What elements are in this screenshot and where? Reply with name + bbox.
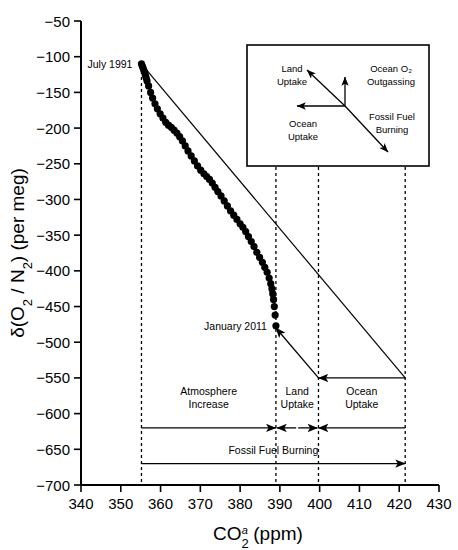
y-tick-label-5: −300	[36, 191, 70, 208]
data-point-0-58	[272, 322, 279, 329]
y-tick-label-6: −350	[36, 227, 70, 244]
y-axis-title: δ(O2 / N2) (per meg)	[7, 168, 35, 338]
inset-label-ocean-uptake-line2: Uptake	[288, 131, 318, 142]
data-point-0-8	[145, 82, 152, 89]
inset-label-fossil-fuel-burning-line1: Fossil Fuel	[369, 111, 415, 122]
figure-container: −50−100−150−200−250−300−350−400−450−500−…	[0, 0, 458, 550]
budget-label-ocean-uptake-line1: Ocean	[346, 385, 377, 397]
budget-label-fossil-fuel-burning-line1: Fossil Fuel Burning	[228, 444, 318, 456]
y-axis-title-sub1: 2	[20, 299, 35, 306]
y-tick-label-11: −600	[36, 405, 70, 422]
y-axis-title-slash: / N	[7, 269, 28, 299]
x-tick-label-7: 410	[347, 495, 372, 512]
y-tick-label-2: −150	[36, 84, 70, 101]
x-axis-ticks	[81, 485, 439, 492]
y-axis-title-delta: δ(O	[7, 306, 28, 338]
flux-arrow-land-uptake-flux	[276, 328, 319, 378]
budget-annotation-land-uptake: LandUptake	[277, 385, 318, 428]
y-tick-label-0: −50	[45, 13, 70, 30]
x-tick-label-1: 350	[108, 495, 133, 512]
x-tick-label-8: 420	[387, 495, 412, 512]
budget-annotation-atmosphere-increase: AtmosphereIncrease	[141, 385, 275, 428]
x-axis-title: CO2a (ppm)	[213, 523, 303, 550]
budget-label-atmosphere-increase-line2: Increase	[189, 398, 229, 410]
x-axis-title-suffix: (ppm)	[248, 523, 303, 544]
x-tick-label-0: 340	[68, 495, 93, 512]
budget-label-ocean-uptake-line2: Uptake	[345, 398, 378, 410]
y-tick-label-4: −250	[36, 155, 70, 172]
x-tick-label-5: 390	[267, 495, 292, 512]
budget-label-atmosphere-increase-line1: Atmosphere	[180, 385, 237, 397]
x-axis-tick-labels: 340350360370380390400410420430	[68, 495, 451, 512]
inset-label-ocean-o2-outgassing-line1: Ocean O₂	[370, 63, 412, 74]
x-tick-label-3: 370	[188, 495, 213, 512]
point-label-1: January 2011	[204, 320, 267, 332]
x-tick-label-6: 400	[307, 495, 332, 512]
y-tick-label-9: −500	[36, 334, 70, 351]
y-axis-tick-labels: −50−100−150−200−250−300−350−400−450−500−…	[36, 13, 70, 494]
x-tick-label-2: 360	[148, 495, 173, 512]
flux-arrows-group	[276, 328, 405, 378]
y-axis-title-suffix: ) (per meg)	[7, 168, 28, 262]
svg-text:δ(O2 / N2) (per meg): δ(O2 / N2) (per meg)	[7, 168, 35, 338]
x-tick-label-4: 380	[228, 495, 253, 512]
data-point-0-57	[272, 312, 279, 319]
inset-label-ocean-o2-outgassing-line2: Outgassing	[367, 76, 415, 87]
y-axis-ticks	[74, 21, 81, 485]
x-tick-label-9: 430	[426, 495, 451, 512]
budget-annotation-ocean-uptake: OceanUptake	[318, 385, 405, 428]
inset-label-ocean-uptake-line1: Ocean	[289, 118, 317, 129]
y-tick-label-8: −450	[36, 298, 70, 315]
y-tick-label-10: −550	[36, 369, 70, 386]
y-tick-label-12: −650	[36, 441, 70, 458]
point-label-0: July 1991	[88, 58, 133, 70]
co2-o2-scatter-chart: −50−100−150−200−250−300−350−400−450−500−…	[0, 0, 458, 550]
carbon-budget-annotations: AtmosphereIncreaseLandUptakeOceanUptakeF…	[141, 385, 405, 464]
data-point-labels: July 1991January 2011	[88, 58, 268, 332]
data-point-0-56	[271, 303, 278, 310]
y-tick-label-1: −100	[36, 48, 70, 65]
inset-label-land-uptake-line1: Land	[281, 63, 302, 74]
y-axis-title-sub2: 2	[20, 262, 35, 269]
x-axis-title-base: CO	[213, 523, 242, 544]
budget-label-land-uptake-line1: Land	[286, 385, 310, 397]
budget-label-land-uptake-line2: Uptake	[281, 398, 314, 410]
y-tick-label-13: −700	[36, 477, 70, 494]
y-tick-label-7: −400	[36, 262, 70, 279]
svg-text:CO2a (ppm): CO2a (ppm)	[213, 523, 303, 550]
data-point-0-55	[270, 296, 277, 303]
budget-annotation-fossil-fuel-burning: Fossil Fuel Burning	[141, 444, 405, 464]
inset-label-fossil-fuel-burning-line2: Burning	[376, 124, 409, 135]
inset-label-land-uptake-line2: Uptake	[277, 76, 307, 87]
y-tick-label-3: −200	[36, 120, 70, 137]
inset-legend: Land Uptake Ocean O₂ Outgassing Ocean Up…	[247, 45, 429, 166]
